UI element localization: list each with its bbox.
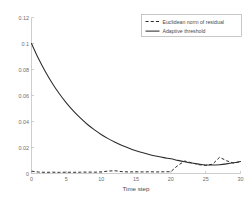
y-tick-label: 0.04 — [18, 119, 29, 125]
x-tick-label: 25 — [203, 176, 209, 182]
chart-figure: 051015202530 00.020.040.060.080.10.12 Ti… — [0, 0, 251, 199]
y-tick-label: 0 — [26, 171, 29, 177]
series-line-solid — [32, 44, 241, 166]
data-series — [32, 44, 241, 173]
x-axis-ticks: 051015202530 — [30, 171, 244, 182]
chart-canvas: 051015202530 00.020.040.060.080.10.12 Ti… — [0, 0, 251, 199]
x-axis-label: Time step — [123, 185, 150, 192]
y-tick-label: 0.12 — [18, 15, 29, 21]
y-tick-label: 0.1 — [21, 41, 29, 47]
x-tick-label: 5 — [65, 176, 68, 182]
legend[interactable]: Euclidean norm of residualAdaptive thres… — [142, 15, 242, 37]
x-tick-label: 30 — [238, 176, 244, 182]
legend-label[interactable]: Euclidean norm of residual — [163, 19, 224, 25]
x-tick-label: 0 — [30, 176, 33, 182]
x-tick-label: 15 — [133, 176, 139, 182]
y-tick-label: 0.08 — [18, 67, 29, 73]
x-tick-label: 10 — [98, 176, 104, 182]
y-tick-label: 0.06 — [18, 93, 29, 99]
x-tick-label: 20 — [168, 176, 174, 182]
axes — [32, 18, 241, 174]
legend-label[interactable]: Adaptive threshold — [163, 28, 206, 34]
y-tick-label: 0.02 — [18, 145, 29, 151]
